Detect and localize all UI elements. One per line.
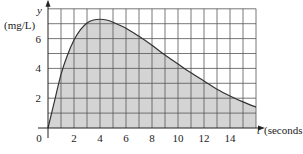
concentration-chart: 02468101214 246 y (mg/L) t (seconds)	[0, 0, 303, 154]
x-tick-label: 4	[97, 132, 103, 144]
x-tick-label: 0	[36, 132, 42, 144]
y-tick-labels: 246	[36, 33, 42, 105]
y-axis-unit: (mg/L)	[4, 19, 35, 32]
x-tick-label: 2	[71, 132, 77, 144]
y-axis-label: y	[36, 4, 42, 16]
x-tick-label: 8	[149, 132, 155, 144]
x-tick-label: 10	[173, 132, 185, 144]
x-axis-label: t	[257, 124, 261, 136]
x-axis-unit: (seconds)	[264, 124, 303, 137]
x-tick-label: 12	[199, 132, 210, 144]
y-tick-label: 4	[36, 62, 42, 74]
x-tick-labels: 02468101214	[36, 132, 236, 144]
y-tick-label: 6	[36, 33, 42, 45]
x-tick-label: 6	[123, 132, 129, 144]
x-tick-label: 14	[225, 132, 237, 144]
y-tick-label: 2	[36, 92, 42, 104]
